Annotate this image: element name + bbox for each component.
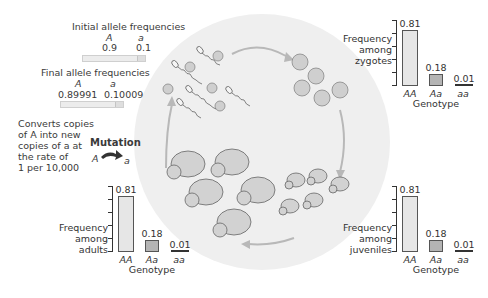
bar-Aa (145, 240, 159, 252)
bar-aa (455, 250, 473, 252)
juveniles-ylabel: Frequency among juveniles (335, 222, 392, 255)
initial-a-value: 0.1 (136, 42, 151, 53)
juveniles-chart: 0.81 0.18 0.01 AA Aa aa Genotype (396, 186, 476, 252)
bar-Aa (429, 74, 443, 86)
adults-chart: 0.81 0.18 0.01 AA Aa aa Genotype (112, 186, 192, 252)
final-allele-bar (60, 101, 124, 108)
mutation-from: A (92, 153, 99, 164)
zygotes-chart: 0.81 0.18 0.01 AA Aa aa Genotype (396, 20, 476, 86)
initial-A-value: 0.9 (102, 42, 117, 53)
final-A-label: A (75, 78, 82, 89)
bar-AA (402, 196, 418, 252)
adults-ylabel: Frequency among adults (48, 222, 108, 255)
initial-allele-title: Initial allele frequencies (72, 21, 185, 32)
final-allele-title: Final allele frequencies (41, 67, 150, 78)
bar-aa (455, 84, 473, 86)
initial-allele-bar (82, 55, 146, 62)
bar-Aa (429, 240, 443, 252)
bar-aa (171, 250, 189, 252)
mutation-to: a (124, 155, 130, 166)
mutation-description: Converts copies of A into new copies of … (18, 118, 94, 173)
mutation-arrow-icon (100, 148, 124, 162)
bar-AA (402, 30, 418, 86)
mutation-title: Mutation (90, 137, 141, 148)
zygotes-ylabel: Frequency among zygotes (340, 33, 392, 66)
initial-a-segment (137, 56, 145, 61)
bar-AA (118, 196, 134, 252)
final-a-value: 0.10009 (104, 89, 143, 100)
final-a-label: a (110, 78, 116, 89)
final-A-value: 0.89991 (58, 89, 97, 100)
final-a-segment (115, 102, 123, 107)
